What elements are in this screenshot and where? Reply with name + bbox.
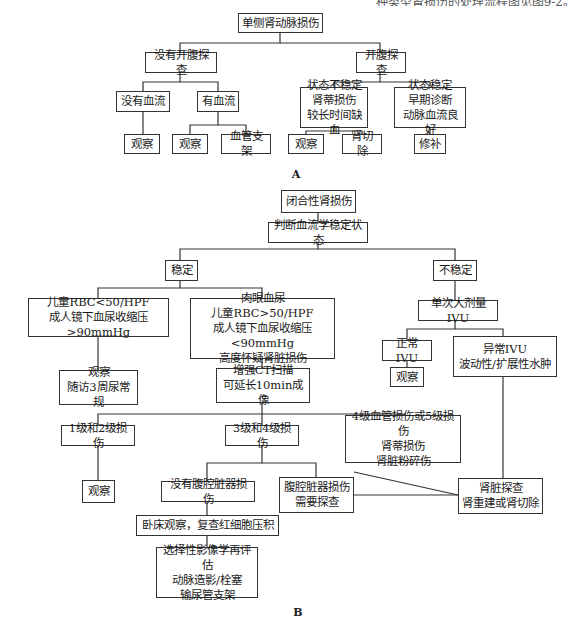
node-unstable: 不稳定: [433, 260, 477, 281]
node-renal-exploration: 肾脏探查 肾重建或肾切除: [458, 478, 543, 514]
node-observe-ivu: 观察: [390, 367, 424, 387]
node-blood-flow: 有血流: [197, 91, 239, 112]
node-gross-hematuria: 肉眼血尿 儿童RBC>50/HPF 成人镜下血尿收缩压<90mmHg 高度怀疑肾…: [190, 298, 335, 359]
node-observe-a2: 观察: [172, 134, 208, 154]
node-grade-3-4: 3级和4级损伤: [225, 425, 299, 446]
node-observe-a3: 观察: [288, 134, 324, 154]
node-contrast-ct: 增强CT扫描 可延长10min成像: [216, 368, 310, 403]
node-unstable-pedicle: 状态不稳定 肾蒂损伤 较长时间缺血: [300, 87, 368, 128]
node-bedrest-hematocrit: 卧床观察，复查红细胞压积: [136, 515, 279, 536]
node-minor-hematuria: 儿童RBC<50/HPF 成人镜下血尿收缩压>90mmHg: [28, 298, 169, 337]
diagram-a-label: A: [290, 168, 302, 181]
node-grade-4v-5: 4级血管损伤或5级损伤 肾蒂损伤 肾脏粉碎伤: [345, 415, 461, 463]
node-normal-ivu: 正常IVU: [382, 340, 432, 361]
node-stable-early: 状态稳定 早期诊断 动脉血流良好: [394, 87, 466, 128]
node-single-shot-ivu: 单次大剂量IVU: [418, 300, 498, 321]
node-assess-hemodynamic: 判断血流学稳定状态: [268, 222, 368, 243]
node-no-blood-flow: 没有血流: [116, 91, 170, 112]
node-selective-reassessment: 选择性影像学再评估 动脉造影/栓塞 输尿管支架: [156, 547, 258, 598]
node-no-laparotomy: 没有开腹探查: [145, 52, 217, 73]
node-grade-1-2: 1级和2级损伤: [61, 425, 135, 446]
node-observe-a1: 观察: [124, 134, 160, 154]
node-no-abdominal-injury: 没有腹腔脏器损伤: [161, 481, 255, 502]
node-laparotomy: 开腹探查: [356, 52, 406, 73]
diagram-b-label: B: [292, 606, 304, 619]
node-unilateral-renal-artery-injury: 单侧肾动脉损伤: [238, 13, 323, 33]
node-nephrectomy: 肾切除: [342, 134, 382, 154]
node-repair: 修补: [414, 134, 446, 154]
node-closed-renal-injury: 闭合性肾损伤: [281, 190, 356, 213]
node-stable: 稳定: [165, 260, 198, 281]
node-observe-g12: 观察: [82, 480, 115, 503]
node-observe-followup: 观察 随访3周尿常规: [59, 370, 138, 405]
node-vascular-stent: 血管支架: [221, 134, 271, 154]
node-abnormal-ivu: 异常IVU 波动性/扩展性水肿: [453, 336, 557, 377]
node-abdominal-injury: 腹腔脏器损伤 需要探查: [279, 477, 354, 513]
